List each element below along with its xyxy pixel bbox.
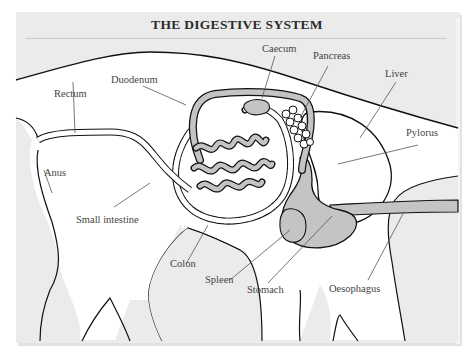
label-duodenum: Duodenum [111, 74, 158, 85]
label-caecum: Caecum [262, 43, 296, 54]
label-spleen: Spleen [205, 274, 234, 285]
caecum [244, 100, 270, 115]
label-small-intestine: Small intestine [76, 214, 139, 225]
label-liver: Liver [385, 68, 408, 79]
label-colon: Colon [170, 258, 196, 269]
label-anus: Anus [44, 167, 66, 178]
label-rectum: Rectum [54, 88, 87, 99]
label-oesophagus: Oesophagus [329, 283, 380, 294]
label-pancreas: Pancreas [313, 50, 350, 61]
digestive-system-illustration [0, 0, 474, 360]
label-stomach: Stomach [247, 284, 284, 295]
spleen [280, 209, 306, 243]
label-pylorus: Pylorus [406, 127, 438, 138]
